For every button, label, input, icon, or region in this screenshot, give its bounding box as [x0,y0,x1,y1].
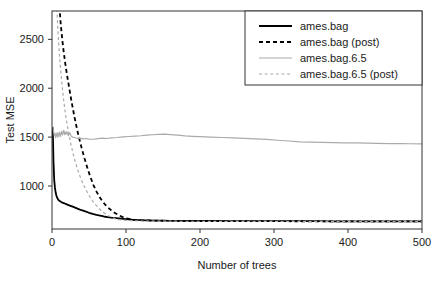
legend-label-3: ames.bag.6.5 [300,52,367,64]
x-axis-title: Number of trees [198,259,277,271]
legend-label-1: ames.bag [300,20,348,32]
x-tick-label: 200 [191,236,209,248]
x-tick-label: 300 [265,236,283,248]
y-axis-title: Test MSE [4,96,16,143]
test-mse-line-chart: 0100200300400500 1000150020002500 Number… [0,0,435,283]
x-tick-label: 400 [339,236,357,248]
y-tick-label: 1500 [20,131,44,143]
y-tick-label: 1000 [20,180,44,192]
y-tick-label: 2500 [20,33,44,45]
x-tick-label: 0 [49,236,55,248]
chart-figure: 0100200300400500 1000150020002500 Number… [0,0,435,283]
legend-label-2: ames.bag (post) [300,36,379,48]
x-tick-label: 100 [117,236,135,248]
y-tick-label: 2000 [20,82,44,94]
legend-label-4: ames.bag.6.5 (post) [300,68,398,80]
x-tick-label: 500 [413,236,431,248]
chart-legend: ames.bagames.bag (post)ames.bag.6.5ames.… [245,11,422,85]
